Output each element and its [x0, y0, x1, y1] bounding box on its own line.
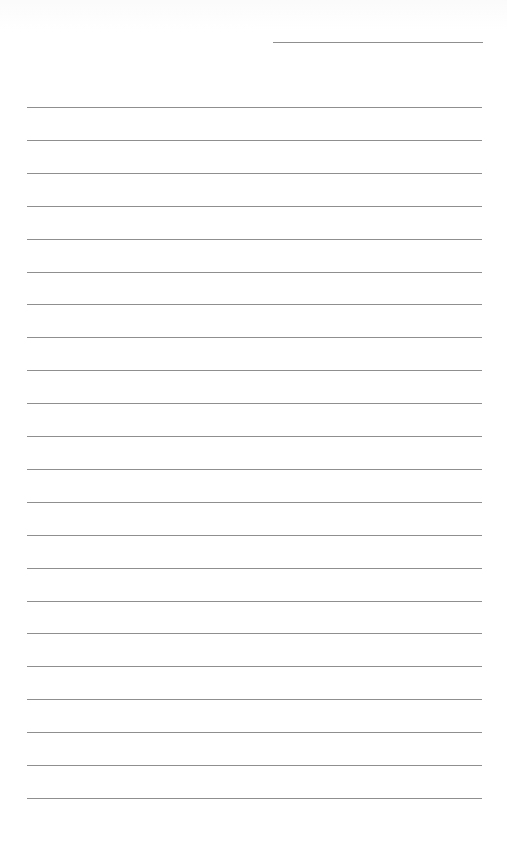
- ruled-line: [27, 568, 482, 569]
- ruled-line: [27, 436, 482, 437]
- ruled-line: [27, 765, 482, 766]
- ruled-line: [27, 633, 482, 634]
- ruled-line: [27, 535, 482, 536]
- ruled-line: [27, 370, 482, 371]
- ruled-line: [27, 337, 482, 338]
- ruled-line: [27, 239, 482, 240]
- ruled-line: [27, 732, 482, 733]
- ruled-line: [27, 173, 482, 174]
- ruled-line: [27, 272, 482, 273]
- ruled-line: [27, 206, 482, 207]
- ruled-line: [27, 699, 482, 700]
- ruled-line: [27, 140, 482, 141]
- ruled-line: [27, 107, 482, 108]
- faint-bleed-through-area: [0, 0, 507, 30]
- header-name-line: [273, 42, 483, 43]
- ruled-line: [27, 666, 482, 667]
- ruled-line: [27, 403, 482, 404]
- ruled-line: [27, 502, 482, 503]
- lined-paper-page: [0, 0, 507, 861]
- ruled-line: [27, 798, 482, 799]
- ruled-line: [27, 601, 482, 602]
- ruled-line: [27, 469, 482, 470]
- ruled-line: [27, 304, 482, 305]
